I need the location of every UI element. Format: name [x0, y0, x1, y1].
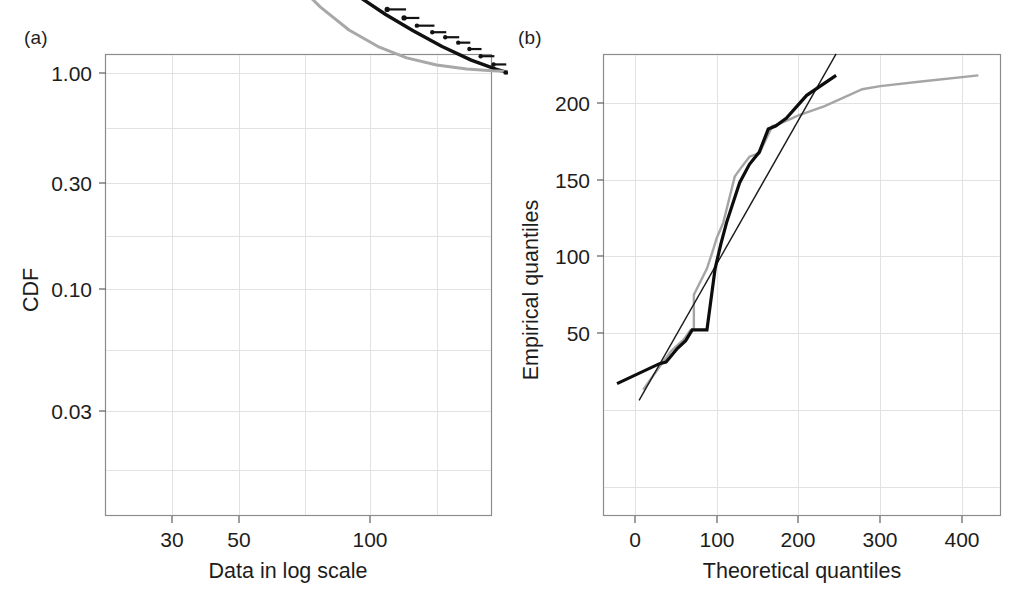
panel-b-xtick-2: 100 — [699, 528, 734, 551]
panel-b-xtick-5: 400 — [944, 528, 979, 551]
panel-b-label: (b) — [518, 27, 542, 48]
panel-a-step-dot — [478, 54, 482, 58]
panel-b-svg: (b) — [508, 0, 1016, 591]
panel-b-y-gridlines — [604, 103, 1000, 487]
panel-a-ytick-2: 0.30 — [51, 172, 92, 195]
panel-b-xtick-4: 300 — [862, 528, 897, 551]
panel-a-svg: (a) — [0, 0, 508, 591]
panel-a-step-dot — [443, 35, 447, 39]
panel-b-reference-line — [639, 54, 836, 401]
panel-a-y-gridlines — [106, 73, 491, 411]
panel-a-xtick-2: 50 — [227, 528, 250, 551]
panel-b-xaxis-title: Theoretical quantiles — [703, 559, 901, 583]
panel-b-ytick-4: 50 — [567, 322, 590, 345]
panel-a-xaxis-title: Data in log scale — [209, 559, 368, 583]
panel-a-ytick-3: 0.10 — [51, 278, 92, 301]
panel-a-curve-fitted-model-gray — [121, 0, 508, 72]
panel-a-step-dot — [430, 30, 434, 34]
panel-b-xtick-3: 200 — [780, 528, 815, 551]
figure-container: (a) — [0, 0, 1016, 591]
panel-b-ytick-2: 150 — [555, 169, 590, 192]
panel-b-xtick-1: 0 — [629, 528, 641, 551]
panel-b-plot-frame — [604, 55, 1001, 516]
panel-a: (a) — [0, 0, 508, 591]
panel-a-data-layer — [113, 0, 508, 75]
panel-a-ytick-1: 1.00 — [51, 62, 92, 85]
panel-b: (b) — [508, 0, 1016, 591]
panel-a-x-gridlines — [172, 55, 437, 515]
panel-a-label: (a) — [24, 27, 48, 48]
panel-a-step-dot — [467, 47, 471, 51]
panel-a-yaxis-title: CDF — [19, 268, 43, 312]
panel-a-minor-gridlines — [106, 128, 491, 470]
panel-b-x-gridlines — [635, 55, 962, 515]
panel-a-xtick-1: 30 — [160, 528, 183, 551]
panel-b-curve-qq-black-steps — [617, 75, 836, 383]
panel-b-ytick-3: 100 — [555, 245, 590, 268]
panel-a-x-tickmarks — [172, 516, 370, 523]
panel-a-ytick-4: 0.03 — [51, 400, 92, 423]
panel-a-step-dot — [385, 7, 390, 12]
panel-b-x-tickmarks — [635, 516, 962, 523]
panel-b-curve-qq-gray-steps — [643, 75, 978, 389]
panel-a-step-dot — [491, 62, 495, 66]
panel-b-yaxis-title: Empirical quantiles — [519, 200, 543, 380]
panel-a-step-dot — [456, 40, 460, 44]
panel-a-step-dot — [401, 15, 406, 20]
panel-a-plot-frame — [106, 55, 492, 516]
panel-b-ytick-1: 200 — [555, 92, 590, 115]
panel-a-xtick-3: 100 — [352, 528, 387, 551]
panel-a-step-dot — [415, 23, 419, 27]
